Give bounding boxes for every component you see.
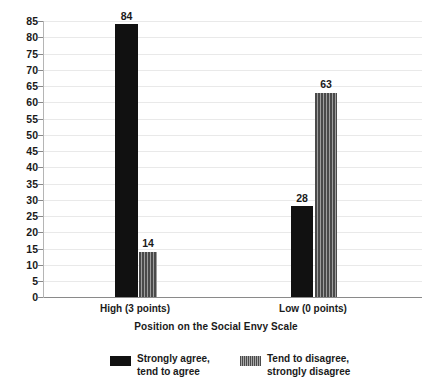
x-axis-title: Position on the Social Envy Scale (0, 321, 432, 332)
y-tick-mark (38, 37, 43, 38)
y-tick-mark (38, 54, 43, 55)
striped-gray-swatch-icon (240, 356, 261, 366)
bar-high-strongly-agree (115, 24, 138, 297)
bar-value-label: 84 (105, 11, 148, 22)
solid-black-swatch-icon (110, 356, 131, 366)
gridline (44, 265, 422, 266)
x-category-label-low: Low (0 points) (253, 303, 373, 314)
y-tick-label: 10 (4, 260, 38, 271)
y-tick-mark (38, 281, 43, 282)
y-tick-label: 35 (4, 179, 38, 190)
x-category-label-high: High (3 points) (75, 303, 195, 314)
legend-item-strongly-agree: Strongly agree, tend to agree (110, 353, 210, 378)
gridline (44, 184, 422, 185)
gridline (44, 200, 422, 201)
y-tick-label: 70 (4, 65, 38, 76)
y-tick-label: 15 (4, 244, 38, 255)
y-tick-mark (38, 135, 43, 136)
plot-area: 84 14 28 63 (44, 21, 422, 297)
y-tick-label: 25 (4, 211, 38, 222)
gridline (44, 102, 422, 103)
y-tick-label: 0 (4, 292, 38, 303)
x-axis-baseline (44, 297, 422, 298)
y-tick-mark (38, 70, 43, 71)
gridline (44, 167, 422, 168)
y-tick-label: 85 (4, 16, 38, 27)
gridline (44, 151, 422, 152)
chart-legend: Strongly agree, tend to agree Tend to di… (0, 353, 432, 385)
legend-item-label: Strongly agree, tend to agree (137, 353, 210, 378)
y-tick-label: 80 (4, 32, 38, 43)
y-tick-label: 75 (4, 49, 38, 60)
legend-item-tend-to-disagree: Tend to disagree, strongly disagree (240, 353, 350, 378)
bar-chart: 85 80 75 70 65 60 55 50 45 40 35 30 25 2… (0, 0, 432, 389)
gridline (44, 21, 422, 22)
bar-high-tend-to-disagree (139, 252, 157, 297)
y-tick-mark (38, 184, 43, 185)
y-tick-label: 20 (4, 227, 38, 238)
gridline (44, 135, 422, 136)
bar-value-label: 14 (126, 238, 170, 249)
y-tick-mark (38, 216, 43, 217)
gridline (44, 249, 422, 250)
y-tick-label: 5 (4, 276, 38, 287)
y-tick-label: 60 (4, 97, 38, 108)
gridline (44, 216, 422, 217)
y-tick-label: 50 (4, 130, 38, 141)
bar-value-label: 63 (304, 79, 348, 90)
gridline (44, 86, 422, 87)
y-tick-mark (38, 249, 43, 250)
gridline (44, 37, 422, 38)
legend-item-label: Tend to disagree, strongly disagree (267, 353, 350, 378)
y-tick-label: 55 (4, 114, 38, 125)
y-tick-mark (38, 102, 43, 103)
y-tick-mark (38, 265, 43, 266)
y-tick-mark (38, 86, 43, 87)
y-tick-mark (38, 21, 43, 22)
y-tick-mark (38, 119, 43, 120)
gridline (44, 54, 422, 55)
y-tick-label: 30 (4, 195, 38, 206)
y-tick-label: 40 (4, 162, 38, 173)
y-tick-mark (38, 232, 43, 233)
bar-low-tend-to-disagree (315, 93, 337, 298)
y-axis-tick-labels: 85 80 75 70 65 60 55 50 45 40 35 30 25 2… (0, 21, 38, 297)
y-tick-mark (38, 297, 43, 298)
gridline (44, 232, 422, 233)
gridline (44, 281, 422, 282)
y-tick-label: 65 (4, 81, 38, 92)
y-tick-mark (38, 200, 43, 201)
gridline (44, 119, 422, 120)
y-tick-mark (38, 151, 43, 152)
gridline (44, 70, 422, 71)
y-tick-label: 45 (4, 146, 38, 157)
bar-low-strongly-agree (291, 206, 313, 297)
y-tick-mark (38, 167, 43, 168)
